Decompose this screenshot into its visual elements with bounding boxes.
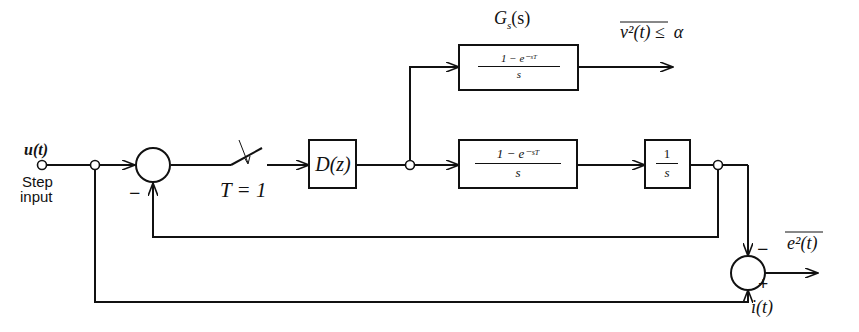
top-block-transfer-function: 1 − e⁻ˢᵀ s (478, 52, 560, 80)
top-block-numerator: 1 − e⁻ˢᵀ (478, 52, 560, 67)
hold-block-transfer-function: 1 − e⁻ˢᵀ s (475, 146, 561, 181)
controller-label: D(z) (311, 153, 355, 176)
ideal-signal-label: i(t) (751, 297, 773, 318)
v2-signal: v²(t) (620, 22, 650, 42)
top-output-constraint: v²(t) ≤ α (620, 22, 683, 43)
top-block-denominator: s (478, 67, 560, 80)
sampler-period-label: T = 1 (220, 178, 266, 203)
error-output-label: e²(t) (787, 233, 817, 254)
block-diagram-canvas (0, 0, 859, 332)
output-branch-node (714, 161, 723, 170)
summer1-junction (136, 148, 170, 182)
input-branch-node (91, 161, 100, 170)
summer1-feedback-sign: − (129, 182, 140, 205)
integrator-transfer-function: 1 s (656, 146, 678, 181)
top-block-name-main: G (494, 8, 507, 28)
input-terminal-node (38, 161, 47, 170)
sampler-switch-blade (231, 148, 262, 165)
integrator-numerator: 1 (656, 146, 678, 164)
controller-branch-node (406, 161, 415, 170)
top-block-name-arg: (s) (511, 8, 530, 28)
constraint-relation: ≤ (655, 22, 665, 42)
input-signal-label: u(t) (24, 141, 48, 159)
top-block-name: Gs(s) (494, 8, 530, 31)
summer2-top-sign: − (757, 238, 768, 261)
hold-block-numerator: 1 − e⁻ˢᵀ (475, 146, 561, 164)
input-caption-line2: input (20, 189, 53, 205)
summer2-bottom-sign: + (758, 274, 768, 295)
constraint-bound: α (674, 22, 683, 42)
integrator-denominator: s (656, 164, 678, 181)
hold-block-denominator: s (475, 164, 561, 181)
branch-to-top-block-wire (410, 67, 459, 161)
